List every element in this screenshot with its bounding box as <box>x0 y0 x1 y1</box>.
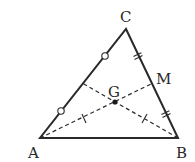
triangle-diagram: A B C M G <box>0 0 195 162</box>
label-b: B <box>176 144 187 162</box>
equal-mark-tick-bg <box>142 114 147 123</box>
label-m: M <box>156 70 171 88</box>
equal-mark-circle-upper <box>102 53 108 59</box>
label-a: A <box>27 144 39 162</box>
label-c: C <box>120 8 131 26</box>
label-g: G <box>108 83 120 101</box>
median-am <box>40 84 152 139</box>
equal-mark-circle-lower <box>58 108 64 114</box>
